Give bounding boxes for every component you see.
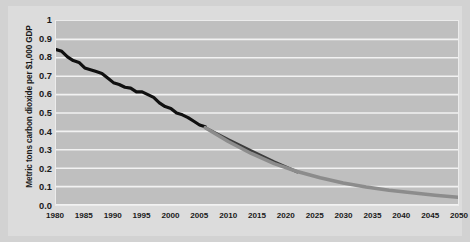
x-tick-label: 2010 [219,211,237,220]
y-tick-label: 0.6 [39,89,52,99]
x-tick-label: 2050 [450,211,468,220]
y-tick-label: 0.9 [39,34,52,44]
y-axis-tick-labels: 10.90.80.70.60.50.40.30.20.10.0 [22,20,52,206]
y-tick-label: 0.1 [39,182,52,192]
chart-inner-frame: Metric tons carbon dioxide per $1,000 GD… [8,6,462,236]
y-tick-label: 0.7 [39,71,52,81]
y-tick-label: 0.2 [39,164,52,174]
x-tick-label: 2005 [190,211,208,220]
x-tick-label: 2015 [248,211,266,220]
y-tick-label: 0.8 [39,52,52,62]
x-tick-label: 1995 [133,211,151,220]
x-tick-label: 2040 [392,211,410,220]
x-tick-label: 1985 [75,211,93,220]
y-tick-label: 0.5 [39,108,52,118]
x-tick-label: 1990 [104,211,122,220]
x-tick-label: 2030 [335,211,353,220]
x-axis-tick-labels: 1980198519901995200020052010201520202025… [55,211,459,227]
x-tick-label: 2020 [277,211,295,220]
plot-area [55,20,459,206]
y-tick-label: 0.4 [39,127,52,137]
y-tick-label: 0.3 [39,145,52,155]
y-tick-label: 1 [47,15,52,25]
x-tick-label: 2025 [306,211,324,220]
x-tick-label: 2000 [161,211,179,220]
x-tick-label: 2035 [363,211,381,220]
x-tick-label: 1980 [46,211,64,220]
y-tick-label: 0.0 [39,201,52,211]
chart-figure: Metric tons carbon dioxide per $1,000 GD… [0,0,470,242]
chart-canvas [56,21,458,205]
x-tick-label: 2045 [421,211,439,220]
data-line [56,50,205,127]
